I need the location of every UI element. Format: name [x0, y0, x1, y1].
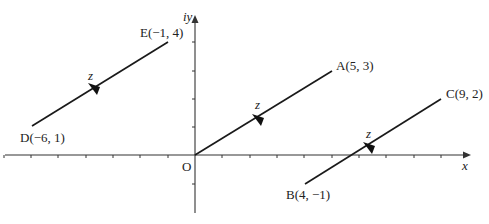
origin-label: O — [182, 159, 191, 174]
x-axis — [4, 152, 471, 159]
point-label-C: C(9, 2) — [446, 86, 483, 101]
segment-BC: z B(4, −1) C(9, 2) — [286, 86, 483, 202]
vector-label-z: z — [254, 97, 260, 112]
y-axis-arrow-icon — [192, 15, 199, 23]
vector-label-z: z — [87, 68, 93, 83]
y-axis-label: iy — [183, 9, 193, 24]
x-axis-label: x — [461, 158, 468, 173]
point-label-E: E(−1, 4) — [140, 25, 183, 40]
vector-label-z: z — [365, 126, 371, 141]
point-label-B: B(4, −1) — [286, 187, 330, 202]
segment-OA: z A(5, 3) — [195, 58, 374, 155]
point-label-A: A(5, 3) — [336, 58, 374, 73]
y-axis — [192, 15, 199, 213]
point-label-D: D(−6, 1) — [20, 130, 65, 145]
complex-plane-diagram: x iy O z A(5, 3) z B(4, −1) C(9, 2) z D(… — [0, 0, 489, 224]
segment-DE: z D(−6, 1) E(−1, 4) — [20, 25, 183, 145]
